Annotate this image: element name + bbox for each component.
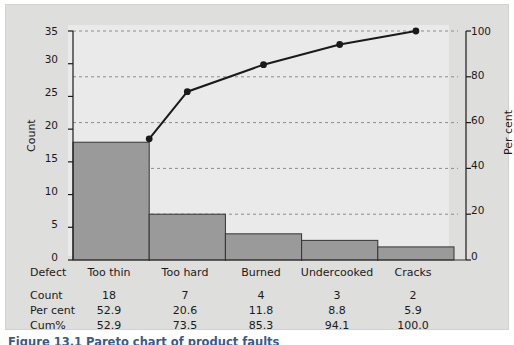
table-row-label-count: Count	[30, 290, 63, 301]
cum-marker-2	[260, 61, 267, 68]
right-tick-20: 20	[471, 205, 495, 216]
table-cell-count-4: 2	[375, 290, 451, 301]
category-label-1: Too hard	[147, 267, 223, 278]
left-tick-0: 0	[34, 252, 58, 263]
category-label-0: Too thin	[71, 267, 147, 278]
figure-caption: Figure 13.1 Pareto chart of product faul…	[8, 335, 279, 345]
category-label-2: Burned	[223, 267, 299, 278]
table-cell-cumpercent-1: 73.5	[147, 320, 223, 331]
bar-0	[73, 142, 149, 260]
left-tick-5: 5	[34, 219, 58, 230]
table-cell-count-2: 4	[223, 290, 299, 301]
chart-panel: 35 30 25 20 15 10 5 0 100 80 60 40 20 0 …	[5, 4, 509, 330]
table-cell-count-0: 18	[71, 290, 147, 301]
category-label-4: Cracks	[375, 267, 451, 278]
category-label-3: Undercooked	[299, 267, 375, 278]
bar-1	[149, 214, 225, 260]
right-tick-0: 0	[471, 251, 495, 262]
table-cell-cumpercent-3: 94.1	[299, 320, 375, 331]
table-cell-count-1: 7	[147, 290, 223, 301]
table-cell-count-3: 3	[299, 290, 375, 301]
cum-marker-3	[336, 41, 343, 48]
right-axis	[466, 31, 471, 260]
right-tick-40: 40	[471, 160, 495, 171]
left-tick-25: 25	[34, 87, 58, 98]
pareto-chart-svg	[6, 5, 510, 331]
cum-marker-0	[146, 135, 153, 142]
bar-2	[225, 234, 301, 260]
table-row-label-defect: Defect	[30, 267, 66, 278]
left-tick-15: 15	[34, 153, 58, 164]
table-cell-percent-2: 11.8	[223, 305, 299, 316]
table-cell-cumpercent-0: 52.9	[71, 320, 147, 331]
table-cell-cumpercent-2: 85.3	[223, 320, 299, 331]
right-axis-title: Per cent	[503, 110, 514, 155]
bar-3	[302, 240, 378, 260]
left-tick-35: 35	[34, 26, 58, 37]
table-cell-percent-3: 8.8	[299, 305, 375, 316]
left-axis-title: Count	[26, 119, 37, 152]
table-row-label-cumpercent: Cum%	[30, 320, 66, 331]
table-cell-percent-1: 20.6	[147, 305, 223, 316]
table-cell-percent-0: 52.9	[71, 305, 147, 316]
right-tick-100: 100	[471, 26, 495, 37]
left-tick-10: 10	[34, 186, 58, 197]
table-cell-percent-4: 5.9	[375, 305, 451, 316]
bar-4	[378, 247, 454, 260]
left-tick-30: 30	[34, 54, 58, 65]
table-cell-cumpercent-4: 100.0	[375, 320, 451, 331]
pareto-chart-figure: 35 30 25 20 15 10 5 0 100 80 60 40 20 0 …	[0, 0, 514, 345]
cum-marker-1	[184, 88, 191, 95]
table-row-label-percent: Per cent	[30, 305, 75, 316]
right-tick-80: 80	[471, 70, 495, 81]
cum-marker-4	[413, 28, 420, 35]
right-tick-60: 60	[471, 115, 495, 126]
category-separators	[73, 260, 466, 261]
